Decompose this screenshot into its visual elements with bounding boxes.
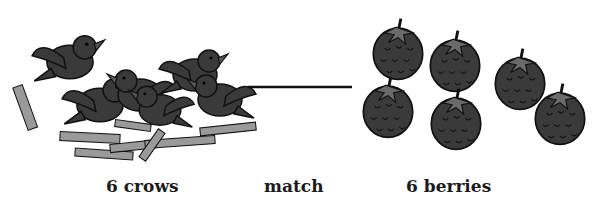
berry-5 xyxy=(495,49,544,110)
berry-3 xyxy=(430,31,479,92)
berries-label: 6 berries xyxy=(406,176,491,196)
crows-label: 6 crows xyxy=(106,176,179,196)
crow-group xyxy=(32,36,256,127)
berry-group xyxy=(363,19,584,150)
berry-2 xyxy=(363,77,412,138)
berry-4 xyxy=(431,89,480,150)
berry-1 xyxy=(373,19,422,80)
crow-1 xyxy=(32,36,104,81)
crow-6 xyxy=(187,75,256,118)
match-label: match xyxy=(264,176,324,196)
